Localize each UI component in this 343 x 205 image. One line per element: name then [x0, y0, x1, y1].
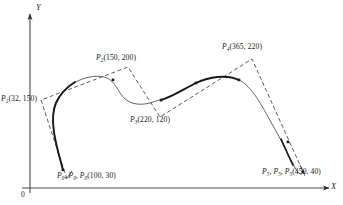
- label-p1-coords: (32, 150): [8, 94, 37, 103]
- label-control-point-p0-triple: P0, P0, P0(100, 30): [57, 172, 116, 180]
- label-p5-coords: (450, 40): [292, 167, 321, 176]
- label-control-point-p4: P4(365, 220): [222, 43, 262, 51]
- curve-node-marker: [238, 79, 241, 82]
- spline-curve-group: [53, 76, 303, 174]
- y-axis-label: Y: [36, 4, 41, 12]
- label-p5-subscript-2: 5: [278, 171, 281, 177]
- label-p0-symbol-3: P: [80, 171, 85, 180]
- spline-segment-bold-middle: [161, 77, 239, 100]
- curve-node-marker: [112, 79, 115, 82]
- label-p5-symbol-3: P: [285, 167, 290, 176]
- spline-curve-thin: [53, 76, 303, 174]
- label-p2-coords: (150, 200): [103, 53, 136, 62]
- label-p4-coords: (365, 220): [229, 42, 262, 51]
- label-p0-coords: (100, 30): [87, 171, 116, 180]
- curve-node-marker: [287, 141, 290, 144]
- spline-segment-bold-left: [53, 82, 75, 170]
- curve-node-marker: [160, 99, 163, 102]
- x-axis-label: X: [331, 183, 336, 191]
- label-p0-subscript-2: 0: [73, 175, 76, 181]
- label-control-point-p2: P2(150, 200): [96, 54, 136, 62]
- curve-node-marker: [195, 82, 198, 85]
- label-p5-subscript-3: 5: [290, 171, 293, 177]
- control-polygon-path: [41, 59, 305, 179]
- origin-label: 0: [21, 191, 25, 199]
- spline-curve-figure: P1(32, 150) P2(150, 200) P3(220, 120) P4…: [0, 0, 343, 205]
- label-p0-subscript-3: 0: [85, 175, 88, 181]
- label-control-point-p5-triple: P5, P5, P5(450, 40): [262, 168, 321, 176]
- label-control-point-p1: P1(32, 150): [1, 95, 37, 103]
- label-p3-coords: (220, 120): [137, 115, 170, 124]
- label-control-point-p3: P3(220, 120): [130, 116, 170, 124]
- curve-node-markers: [62, 79, 305, 174]
- control-polygon: [41, 59, 305, 179]
